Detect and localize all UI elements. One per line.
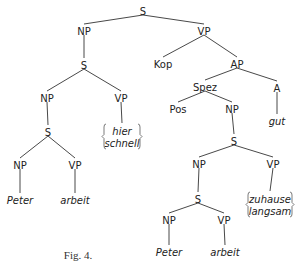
tree-edge	[47, 102, 48, 125]
tree-edges	[20, 15, 277, 245]
tree-edge	[204, 35, 237, 57]
tree-edge	[20, 136, 48, 158]
node-np: NP	[77, 26, 91, 37]
node-kop: Kop	[154, 59, 173, 70]
brace-alternatives: zuhauselangsam	[246, 192, 294, 217]
terminal-word-peter: Peter	[7, 195, 34, 206]
node-vp: VP	[69, 160, 82, 171]
terminal-word-arbeit: arbeit	[210, 247, 241, 258]
tree-edge	[143, 15, 204, 24]
tree-edge	[270, 168, 273, 191]
tree-edge	[198, 168, 199, 192]
tree-edge	[169, 203, 198, 213]
terminal-word-peter: Peter	[156, 247, 183, 258]
tree-edge	[234, 145, 273, 157]
node-np: NP	[192, 159, 206, 170]
node-s: S	[195, 194, 201, 205]
node-np: NP	[13, 160, 27, 171]
tree-edge	[232, 113, 234, 134]
syntax-tree-diagram: SNPVPSNPVPSNPVPPeterarbeitKopAPSpezAgutP…	[0, 0, 298, 267]
tree-edge	[199, 145, 234, 157]
node-np: NP	[40, 93, 54, 104]
node-vp: VP	[198, 26, 211, 37]
terminal-word-arbeit: arbeit	[60, 195, 91, 206]
node-ap: AP	[231, 59, 244, 70]
node-vp: VP	[115, 93, 128, 104]
tree-edge	[48, 136, 75, 158]
node-vp: VP	[267, 159, 280, 170]
tree-edge	[47, 69, 84, 91]
brace-alternatives: hierschnell	[102, 124, 142, 149]
tree-edge	[163, 35, 204, 57]
alternative-word: langsam	[249, 206, 292, 217]
node-s: S	[231, 136, 237, 147]
node-pos: Pos	[169, 104, 186, 115]
node-a: A	[274, 83, 281, 94]
tree-nodes: SNPVPSNPVPSNPVPPeterarbeitKopAPSpezAgutP…	[7, 6, 287, 258]
node-s: S	[140, 6, 146, 17]
tree-edge	[198, 203, 224, 213]
alternative-word: zuhause	[248, 194, 291, 205]
tree-edge	[84, 15, 143, 24]
alternative-word: schnell	[104, 138, 139, 149]
tree-edge	[224, 224, 225, 245]
node-vp: VP	[218, 215, 231, 226]
tree-edge	[84, 69, 121, 91]
alternative-word: hier	[112, 126, 132, 137]
tree-edge	[121, 102, 122, 123]
node-s: S	[81, 60, 87, 71]
terminal-word-gut: gut	[269, 116, 287, 127]
node-s: S	[45, 127, 51, 138]
node-spez: Spez	[193, 82, 217, 93]
node-np: NP	[162, 215, 176, 226]
node-np: NP	[225, 104, 239, 115]
figure-caption: Fig. 4.	[64, 249, 93, 261]
